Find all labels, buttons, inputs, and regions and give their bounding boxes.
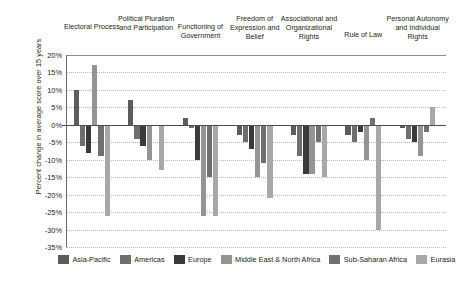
bar: [352, 125, 357, 142]
y-tick-label: 20%: [47, 51, 62, 60]
bar: [92, 65, 97, 124]
bar: [255, 125, 260, 177]
bar: [140, 125, 145, 146]
bar: [316, 125, 321, 142]
bar: [74, 90, 79, 125]
bar: [261, 125, 266, 163]
bar: [406, 125, 411, 139]
y-tick-label: 15%: [47, 68, 62, 77]
bar: [213, 125, 218, 216]
plot-area: 20%15%10%5%0%-5%-10%-15%-20%-25%-30%-35%: [66, 55, 446, 247]
legend-item[interactable]: Europe: [174, 255, 212, 264]
bar: [86, 125, 91, 153]
bar: [291, 125, 296, 135]
bar: [80, 125, 85, 146]
legend-item[interactable]: Americas: [120, 255, 165, 264]
bar: [370, 118, 375, 125]
chart-legend: Asia-PacificAmericasEuropeMiddle East & …: [58, 255, 458, 264]
chart-container: Percent change in average score over 15 …: [0, 0, 465, 282]
bar: [345, 125, 350, 135]
bar: [195, 125, 200, 160]
gridline: [66, 195, 446, 196]
category-label: Personal Autonomy and Individual Rights: [385, 14, 451, 42]
bar: [358, 125, 363, 132]
zero-axis-line: [62, 125, 446, 126]
gridline: [66, 107, 446, 108]
gridline: [66, 230, 446, 231]
bar: [134, 125, 139, 139]
y-axis-spine: [66, 55, 67, 247]
bar: [128, 100, 133, 124]
legend-item[interactable]: Eurasia: [416, 255, 455, 264]
legend-label: Asia-Pacific: [73, 255, 111, 264]
gridline: [66, 247, 446, 248]
bar: [243, 125, 248, 142]
y-axis-title: Percent change in average score over 15 …: [34, 17, 43, 217]
bar: [249, 125, 254, 149]
y-tick-label: -25%: [45, 208, 62, 217]
bar: [364, 125, 369, 160]
bar: [147, 125, 152, 160]
legend-item[interactable]: Sub-Saharan Africa: [329, 255, 407, 264]
bar: [183, 118, 188, 125]
legend-swatch-icon: [120, 255, 131, 264]
gridline: [66, 90, 446, 91]
y-tick-label: -35%: [45, 243, 62, 252]
y-tick-label: 10%: [47, 85, 62, 94]
gridline: [66, 212, 446, 213]
y-tick-label: 5%: [51, 103, 62, 112]
bar: [430, 107, 435, 124]
legend-label: Middle East & North Africa: [235, 255, 320, 264]
gridline: [66, 177, 446, 178]
legend-swatch-icon: [221, 255, 232, 264]
legend-swatch-icon: [58, 255, 69, 264]
bar: [303, 125, 308, 174]
bar: [267, 125, 272, 198]
bar: [98, 125, 103, 156]
legend-item[interactable]: Asia-Pacific: [58, 255, 111, 264]
bar: [424, 125, 429, 132]
legend-item[interactable]: Middle East & North Africa: [221, 255, 321, 264]
legend-label: Americas: [134, 255, 164, 264]
y-tick-label: -15%: [45, 173, 62, 182]
bar: [412, 125, 417, 142]
y-tick-label: -5%: [49, 138, 62, 147]
legend-swatch-icon: [329, 255, 340, 264]
y-tick-label: 0%: [51, 120, 62, 129]
bar: [237, 125, 242, 135]
legend-swatch-icon: [416, 255, 427, 264]
bar: [159, 125, 164, 170]
legend-label: Europe: [188, 255, 212, 264]
legend-swatch-icon: [174, 255, 185, 264]
bar: [418, 125, 423, 156]
y-tick-label: -10%: [45, 155, 62, 164]
bar: [201, 125, 206, 216]
bar: [105, 125, 110, 216]
bar: [322, 125, 327, 177]
legend-label: Eurasia: [431, 255, 456, 264]
bar: [297, 125, 302, 156]
gridline: [66, 72, 446, 73]
y-tick-label: -30%: [45, 225, 62, 234]
bar: [309, 125, 314, 174]
y-tick-label: -20%: [45, 190, 62, 199]
bar: [376, 125, 381, 230]
legend-label: Sub-Saharan Africa: [344, 255, 407, 264]
bar: [207, 125, 212, 177]
gridline: [66, 55, 446, 56]
